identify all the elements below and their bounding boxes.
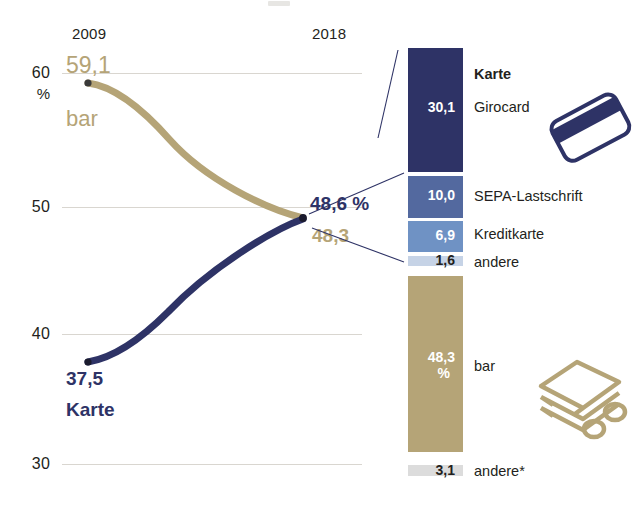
banknotes-coins-icon xyxy=(527,352,639,440)
segment-sepa-label: SEPA-Lastschrift xyxy=(474,188,583,204)
segment-girocard-value: 30,1 xyxy=(428,100,455,115)
segment-andere-karte-value: 1,6 xyxy=(436,253,455,268)
segment-andere-star-label: andere* xyxy=(474,463,525,479)
connector-top xyxy=(378,50,398,138)
segment-andere-karte-label: andere xyxy=(474,254,519,270)
connector-mid xyxy=(309,173,404,214)
segment-kreditkarte-label: Kreditkarte xyxy=(474,226,544,242)
segment-andere-star-value: 3,1 xyxy=(436,463,455,478)
segment-bar-label: bar xyxy=(474,358,495,374)
segment-kreditkarte-value: 6,9 xyxy=(436,228,455,243)
segment-bar[interactable]: 48,3 % xyxy=(408,276,463,452)
segment-andere-star[interactable]: 3,1 xyxy=(408,465,463,476)
segment-bar-value: 48,3 xyxy=(428,350,455,365)
segment-sepa-value: 10,0 xyxy=(428,188,455,203)
segment-andere-karte[interactable]: 1,6 xyxy=(408,256,463,266)
segment-kreditkarte[interactable]: 6,9 xyxy=(408,221,463,252)
segment-bar-unit: % xyxy=(438,366,450,381)
segment-girocard[interactable]: 30,1 xyxy=(408,48,463,172)
group-title-karte: Karte xyxy=(474,66,511,82)
infographic-root: 60 % 50 40 30 2009 2018 59,1 bar 48,6 % … xyxy=(0,0,640,517)
segment-sepa[interactable]: 10,0 xyxy=(408,176,463,218)
credit-card-icon xyxy=(543,82,635,168)
segment-girocard-label: Girocard xyxy=(474,99,530,115)
connector-bottom xyxy=(312,228,404,262)
